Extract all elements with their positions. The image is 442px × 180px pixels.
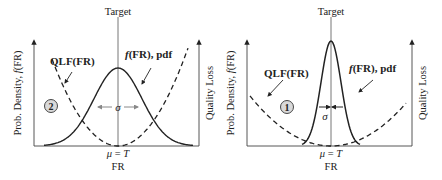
- panel-wide-variance: σ Target QLF(FR) f(FR), pdf μ = T FR Pro…: [12, 6, 215, 172]
- scenario-badge: 1: [281, 101, 294, 114]
- sigma-label: σ: [115, 101, 121, 113]
- y-right-axis-label: Quality Loss: [417, 66, 428, 120]
- pdf-pointer-arrow: [142, 68, 151, 84]
- taguchi-diagram: σ Target QLF(FR) f(FR), pdf μ = T FR Pro…: [0, 0, 442, 180]
- qlf-pointer-arrow: [268, 80, 283, 96]
- svg-text:2: 2: [49, 101, 54, 112]
- scenario-badge: 2: [45, 100, 58, 113]
- y-right-axis-label: Quality Loss: [204, 66, 215, 120]
- qlf-label: QLF(FR): [264, 67, 309, 80]
- svg-text:1: 1: [285, 102, 290, 113]
- pdf-label: f(FR), pdf: [125, 48, 172, 61]
- y-left-axis-label: Prob. Density, f(FR): [12, 50, 24, 136]
- mean-label: μ = T: [106, 148, 130, 159]
- panel-narrow-variance: σ Target QLF(FR) f(FR), pdf μ = T FR Pro…: [225, 6, 428, 172]
- x-axis-label: FR: [325, 161, 338, 172]
- target-label: Target: [318, 6, 345, 17]
- qlf-pointer-arrow: [65, 72, 72, 83]
- target-label: Target: [105, 6, 132, 17]
- qlf-curve: [250, 96, 406, 146]
- sigma-label: σ: [322, 110, 328, 122]
- pdf-pointer-arrow: [359, 80, 373, 92]
- mean-label: μ = T: [319, 148, 343, 159]
- y-left-axis-label: Prob. Density, f(FR): [225, 50, 237, 136]
- x-axis-label: FR: [112, 161, 125, 172]
- pdf-label: f(FR), pdf: [349, 62, 396, 75]
- qlf-label: QLF(FR): [50, 55, 95, 68]
